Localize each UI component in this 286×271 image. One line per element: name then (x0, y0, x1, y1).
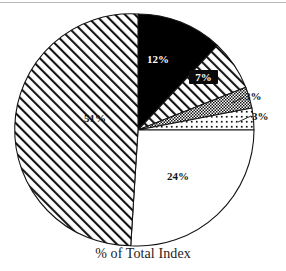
pie-label-3-checker: 3% (245, 90, 262, 102)
chart-caption: % of Total Index (0, 246, 286, 262)
pie-slices (15, 14, 254, 246)
pie-label-24: 24% (167, 170, 189, 182)
pie-label-3-dots: 3% (252, 110, 269, 122)
pie-slice-24[interactable] (131, 130, 254, 246)
pie-label-12: 12% (147, 53, 169, 65)
pie-label-7: 7% (195, 71, 212, 83)
pie-label-51: 51% (84, 112, 106, 124)
pie-chart-figure: 12% 7% 3% 3% 24% 51% % of Total Index (0, 0, 286, 271)
pie-slice-51[interactable] (15, 14, 138, 246)
pie-chart-svg: 12% 7% 3% 3% 24% 51% (0, 0, 286, 271)
